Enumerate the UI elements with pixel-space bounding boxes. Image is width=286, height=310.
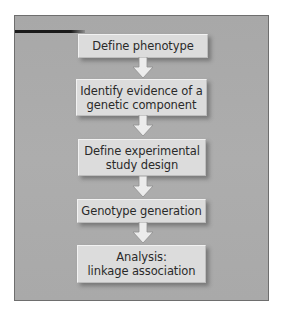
down-arrow-icon (132, 176, 154, 198)
step-define-phenotype: Define phenotype (78, 34, 208, 58)
step-genotype-generation: Genotype generation (77, 199, 206, 223)
step-identify-genetic-component: Identify evidence of a genetic component (76, 79, 207, 116)
header-rule (15, 30, 85, 33)
step-analysis-linkage-association: Analysis: linkage association (77, 245, 206, 283)
step-define-study-design: Define experimental study design (78, 139, 206, 176)
down-arrow-icon (132, 115, 154, 137)
down-arrow-icon (132, 222, 154, 244)
down-arrow-icon (132, 57, 154, 79)
